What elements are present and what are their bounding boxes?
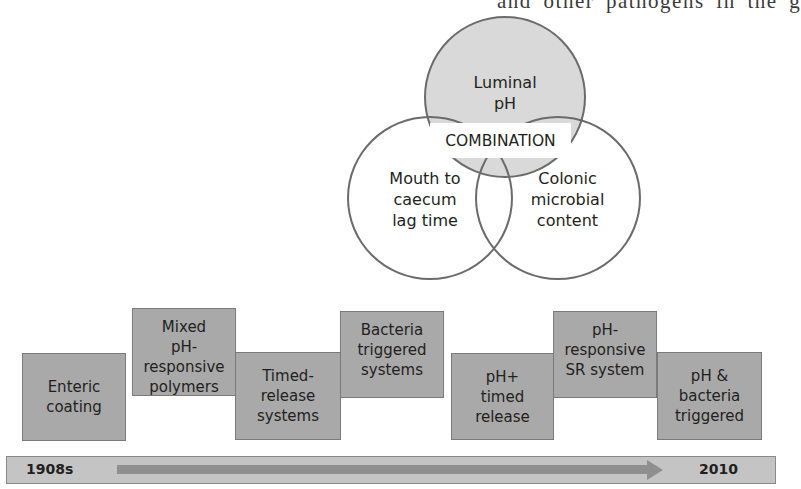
arrow-right-icon (647, 460, 663, 480)
venn-label-colonic-microbial: Colonic microbial content (510, 168, 625, 231)
venn-center-label-combination: COMBINATION (430, 123, 571, 158)
venn-label-luminal-ph: Luminal pH (455, 72, 555, 114)
box-bacteria-triggered-systems: Bacteria triggered systems (340, 311, 444, 398)
box-enteric-coating: Enteric coating (22, 353, 126, 441)
timeline-end-label: 2010 (699, 461, 738, 477)
timeline-start-label: 1908s (26, 461, 73, 477)
box-mixed-ph-responsive-polymers: Mixed pH-responsive polymers (132, 308, 236, 396)
box-timed-release-systems: Timed- release systems (235, 352, 341, 440)
box-ph-responsive-sr-system: pH-responsive SR system (553, 311, 657, 398)
box-ph-timed-release: pH+ timed release (451, 353, 554, 440)
timeline-arrow-shaft (117, 465, 649, 474)
box-ph-bacteria-triggered: pH & bacteria triggered (657, 352, 762, 440)
timeline-bar: 1908s 2010 (6, 456, 776, 484)
clipped-document-text: and other pathogens in the g (497, 0, 801, 14)
venn-label-mouth-to-caecum: Mouth to caecum lag time (370, 168, 480, 231)
